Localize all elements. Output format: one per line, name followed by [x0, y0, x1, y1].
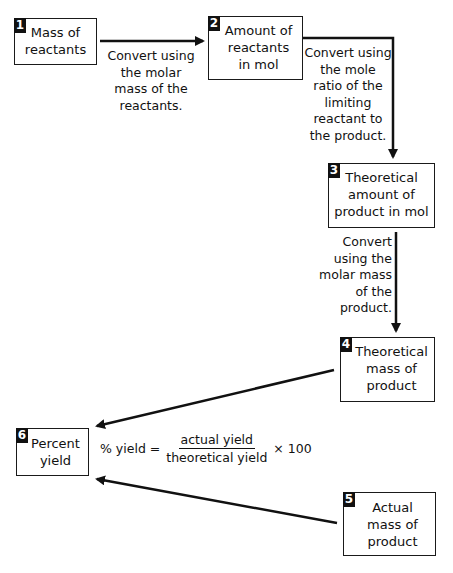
arrow-5-to-6 [97, 479, 337, 523]
box-mass-of-reactants: 1 Mass of reactants [14, 18, 97, 65]
formula-multiplier: × 100 [273, 441, 311, 456]
percent-yield-formula: % yield = actual yield theoretical yield… [100, 432, 312, 465]
formula-fraction: actual yield theoretical yield [166, 432, 267, 465]
box-label: Percent yield [17, 435, 88, 469]
formula-lhs: % yield = [100, 441, 160, 456]
box-actual-mass-of-product: 5 Actual mass of product [343, 492, 436, 556]
box-theoretical-amount-of-product: 3 Theoretical amount of product in mol [328, 163, 435, 228]
box-amount-of-reactants: 2 Amount of reactants in mol [208, 16, 303, 80]
note-convert-molar-mass-product: Convert using the molar mass of the prod… [318, 234, 392, 317]
box-label: Theoretical mass of product [341, 343, 434, 394]
box-percent-yield: 6 Percent yield [16, 428, 89, 476]
note-convert-mole-ratio: Convert using the mole ratio of the limi… [304, 45, 392, 144]
box-label: Theoretical amount of product in mol [329, 169, 434, 220]
box-label: Amount of reactants in mol [209, 22, 302, 73]
note-convert-molar-mass-reactants: Convert using the molar mass of the reac… [101, 48, 201, 114]
formula-denominator: theoretical yield [166, 449, 267, 465]
formula-numerator: actual yield [179, 432, 255, 449]
arrow-4-to-6 [97, 370, 334, 426]
box-theoretical-mass-of-product: 4 Theoretical mass of product [340, 337, 435, 402]
box-label: Mass of reactants [15, 24, 96, 58]
box-label: Actual mass of product [344, 499, 435, 550]
